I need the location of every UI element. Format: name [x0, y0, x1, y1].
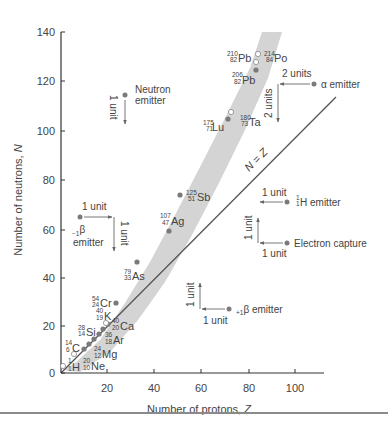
svg-text:Electron capture: Electron capture — [294, 238, 367, 249]
y-axis-title: Number of neutrons, N — [12, 144, 24, 255]
svg-text:82: 82 — [234, 78, 242, 85]
legend-alpha-emitter: 2 units 2 units α emitter — [263, 68, 361, 122]
label-k40: 40 19 K — [96, 307, 112, 322]
label-ag107: 107 47 Ag — [160, 212, 184, 227]
svg-text:+1β emitter: +1β emitter — [236, 304, 283, 316]
x-tick-20: 20 — [101, 382, 113, 394]
svg-text:emitter: emitter — [135, 95, 166, 106]
label-ar36: 36 18 Ar — [105, 331, 124, 346]
svg-text:H emitter: H emitter — [300, 197, 341, 208]
label-ta180: 180 73 Ta — [240, 114, 262, 128]
label-sb125: 125 51 Sb — [186, 189, 210, 203]
point-s32 — [96, 331, 101, 336]
svg-text:2 units: 2 units — [282, 68, 311, 79]
svg-text:Lu: Lu — [212, 121, 224, 133]
point-cr54 — [113, 300, 118, 305]
svg-text:1 unit: 1 unit — [262, 248, 287, 259]
svg-text:Ag: Ag — [171, 215, 184, 227]
label-pb210: 210 82 Pb — [227, 50, 251, 64]
svg-text:6: 6 — [66, 346, 70, 353]
x-tick-80: 80 — [243, 382, 255, 394]
svg-text:Po: Po — [274, 52, 287, 64]
point-ne20 — [81, 346, 86, 351]
label-pb206: 206 82 Pb — [232, 71, 255, 86]
svg-text:1 unit: 1 unit — [185, 282, 196, 307]
svg-text:Cr: Cr — [100, 297, 112, 309]
svg-text:73: 73 — [241, 120, 249, 127]
x-tick-100: 100 — [286, 382, 304, 394]
y-tick-100: 100 — [37, 125, 55, 137]
point-mg24 — [86, 341, 91, 346]
label-as79: 79 33 As — [124, 268, 145, 282]
svg-text:1 unit: 1 unit — [262, 187, 287, 198]
svg-text:82: 82 — [230, 56, 238, 63]
label-ca40: 40 20 Ca — [112, 317, 135, 332]
point-h1 — [60, 363, 65, 368]
point-pb210 — [253, 59, 258, 64]
nuclear-stability-chart: N = Z 0 20 40 60 80 100 120 140 20 40 60… — [0, 0, 388, 434]
svg-text:51: 51 — [188, 195, 196, 202]
label-si28: 28 14 Si — [78, 324, 96, 338]
svg-text:Ne: Ne — [91, 360, 105, 372]
svg-text:18: 18 — [105, 338, 113, 345]
y-tick-80: 80 — [43, 174, 55, 186]
legend-electron-capture: 1 unit 1 unit Electron capture — [243, 215, 367, 259]
svg-text:−1β: −1β — [72, 224, 85, 237]
svg-text:K: K — [104, 310, 112, 322]
svg-text:α emitter: α emitter — [321, 79, 361, 90]
legend-neutron-emitter: 1 unit Neutron emitter — [108, 84, 171, 124]
svg-text:Ar: Ar — [113, 334, 124, 346]
label-lu175: 175 71 Lu — [203, 119, 224, 133]
y-tick-140: 140 — [37, 26, 55, 38]
svg-text:40: 40 — [112, 317, 120, 324]
svg-text:14: 14 — [78, 330, 86, 337]
label-po214: 214 84 Po — [264, 50, 287, 64]
point-po214 — [255, 51, 260, 56]
svg-text:2 units: 2 units — [263, 89, 274, 118]
svg-text:Neutron: Neutron — [135, 84, 171, 95]
svg-text:19: 19 — [96, 314, 104, 321]
svg-text:Pb: Pb — [238, 52, 251, 64]
svg-text:Mg: Mg — [102, 348, 117, 360]
n-equals-z-label: N = Z — [242, 145, 271, 174]
svg-text:10: 10 — [83, 364, 91, 371]
y-tick-0: 0 — [49, 367, 55, 379]
svg-text:84: 84 — [266, 56, 274, 63]
legend-beta-minus-emitter: 1 unit 1 unit −1β emitter — [72, 201, 130, 251]
y-tick-120: 120 — [37, 75, 55, 87]
svg-text:Si: Si — [86, 326, 96, 338]
svg-text:20: 20 — [83, 357, 91, 364]
svg-text:107: 107 — [160, 212, 171, 219]
point-lu175 — [225, 116, 230, 121]
point-ag107 — [166, 228, 171, 233]
point-as79 — [134, 259, 139, 264]
bottom-divider — [0, 412, 388, 414]
svg-text:1 unit: 1 unit — [119, 221, 130, 246]
point-sb125 — [177, 192, 182, 197]
n-equals-z-line — [61, 97, 336, 373]
svg-text:24: 24 — [92, 301, 100, 308]
svg-text:Ca: Ca — [120, 320, 135, 332]
y-tick-60: 60 — [43, 224, 55, 236]
svg-text:1 unit: 1 unit — [82, 201, 107, 212]
label-cr54: 54 24 Cr — [92, 295, 112, 309]
svg-text:emitter: emitter — [73, 237, 104, 248]
x-tick-60: 60 — [195, 382, 207, 394]
point-pb206 — [253, 67, 258, 72]
svg-text:12: 12 — [94, 352, 102, 359]
y-tick-20: 20 — [43, 320, 55, 332]
svg-text:Sb: Sb — [197, 191, 210, 203]
legend-h-emitter: 1 unit 1 1 H emitter — [260, 187, 341, 208]
y-tick-40: 40 — [43, 272, 55, 284]
svg-text:47: 47 — [162, 219, 170, 226]
svg-text:Ta: Ta — [249, 116, 262, 128]
svg-text:H: H — [72, 361, 80, 373]
label-mg24: 24 12 Mg — [94, 345, 117, 360]
svg-text:1 unit: 1 unit — [203, 315, 228, 326]
legend-beta-plus-emitter: 1 unit 1 unit +1β emitter — [185, 282, 283, 326]
svg-text:24: 24 — [94, 345, 102, 352]
svg-text:36: 36 — [105, 331, 113, 338]
svg-text:Pb: Pb — [242, 74, 255, 86]
svg-text:C: C — [72, 342, 80, 354]
label-c14: 14 6 C — [65, 339, 80, 354]
